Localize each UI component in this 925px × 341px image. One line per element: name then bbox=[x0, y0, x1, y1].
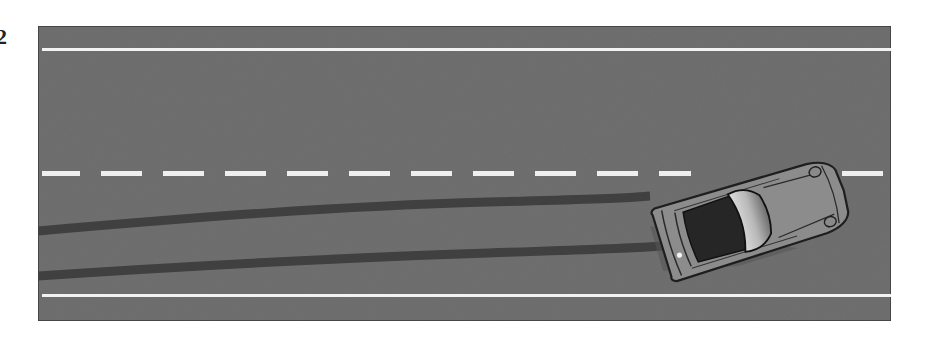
bottom-edge-line bbox=[42, 294, 891, 297]
road-illustration bbox=[38, 26, 891, 321]
figure-label: 2 bbox=[0, 24, 7, 50]
top-edge-line bbox=[42, 48, 891, 51]
